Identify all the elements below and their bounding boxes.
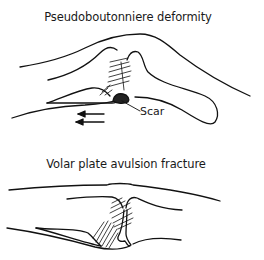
pull-arrows xyxy=(76,111,104,125)
arrow-upper-head xyxy=(78,111,85,117)
scar-blob xyxy=(113,94,129,104)
middle-phalanx-volar-bottom xyxy=(133,238,181,244)
diagram-canvas xyxy=(0,0,264,260)
volar-plate-wedge-base xyxy=(36,228,101,246)
proximal-phalanx-dorsal xyxy=(48,48,117,80)
scar-label: Scar xyxy=(140,105,164,118)
dorsal-skin-line xyxy=(20,34,250,96)
arrow-lower-head xyxy=(76,119,83,125)
finger-volar-plate-fracture xyxy=(7,184,220,250)
finger-pseudoboutonniere xyxy=(12,34,250,125)
volar-plate-outline xyxy=(47,88,110,103)
ligament-hatching xyxy=(100,58,131,95)
scar-leader-line xyxy=(122,101,140,111)
middle-phalanx-dorsal-bottom xyxy=(126,197,182,210)
figure-bottom-title: Volar plate avulsion fracture xyxy=(0,157,258,171)
